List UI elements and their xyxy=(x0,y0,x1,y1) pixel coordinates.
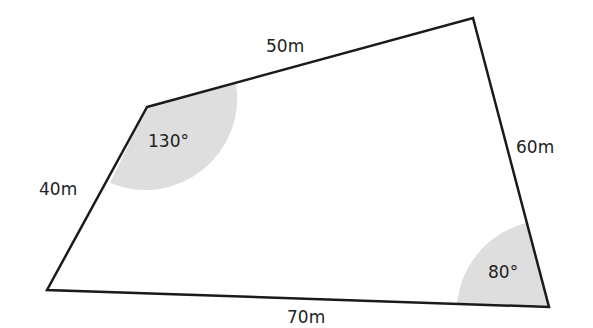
side-label-bottom: 70m xyxy=(287,307,325,327)
side-label-top: 50m xyxy=(266,36,304,56)
side-label-left: 40m xyxy=(39,179,77,199)
angle-label-top-left: 130° xyxy=(148,131,189,151)
quadrilateral-diagram: 50m 60m 70m 40m 130° 80° xyxy=(0,0,593,328)
side-label-right: 60m xyxy=(516,137,554,157)
angle-label-bottom-right: 80° xyxy=(488,262,518,282)
